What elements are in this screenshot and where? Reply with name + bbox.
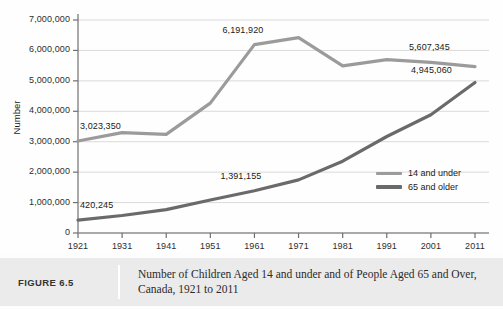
x-axis-tick-label: 1921: [56, 241, 100, 251]
figure-number: FIGURE 6.5: [18, 277, 74, 288]
x-axis-tick-label: 1931: [100, 241, 144, 251]
data-point-label: 4,945,060: [411, 65, 452, 75]
x-axis-tick-label: 1981: [321, 241, 365, 251]
legend-label-14-and-under: 14 and under: [408, 168, 461, 178]
y-axis-tick-label: 2,000,000: [29, 166, 70, 176]
figure-number-cell: FIGURE 6.5: [0, 258, 118, 306]
legend-item-65-and-older: 65 and older: [376, 182, 461, 192]
legend-swatch-65-and-older: [376, 185, 402, 189]
x-axis-tick-label: 2011: [453, 241, 497, 251]
y-axis-tick-label: 6,000,000: [29, 44, 70, 54]
y-axis-tick-label: 5,000,000: [29, 75, 70, 85]
axis-tick-marks: [73, 20, 475, 238]
x-axis-tick-label: 1951: [188, 241, 232, 251]
chart-plot-area: 01,000,0002,000,0003,000,0004,000,0005,0…: [0, 0, 503, 252]
y-axis-title: Number: [11, 83, 22, 153]
data-point-label: 1,391,155: [220, 171, 261, 181]
x-axis-tick-label: 1961: [232, 241, 276, 251]
y-axis-tick-label: 4,000,000: [29, 105, 70, 115]
y-axis-tick-label: 1,000,000: [29, 197, 70, 207]
data-point-label: 5,607,345: [409, 42, 450, 52]
chart-legend: 14 and under 65 and older: [376, 168, 461, 192]
x-axis-tick-label: 1991: [365, 241, 409, 251]
y-axis-tick-label: 0: [65, 227, 70, 237]
x-axis-tick-label: 2001: [409, 241, 453, 251]
data-point-label: 3,023,350: [80, 121, 121, 131]
data-point-label: 6,191,920: [222, 25, 263, 35]
figure-container: 01,000,0002,000,0003,000,0004,000,0005,0…: [0, 0, 503, 309]
line-chart-svg: [0, 0, 503, 252]
figure-title-cell: Number of Children Aged 14 and under and…: [120, 258, 503, 306]
data-point-label: 420,245: [80, 200, 113, 210]
legend-label-65-and-older: 65 and older: [408, 182, 458, 192]
y-axis-tick-label: 7,000,000: [29, 14, 70, 24]
x-axis-tick-label: 1941: [144, 241, 188, 251]
figure-title: Number of Children Aged 14 and under and…: [138, 267, 489, 297]
legend-swatch-14-and-under: [376, 172, 402, 175]
legend-item-14-and-under: 14 and under: [376, 168, 461, 178]
figure-caption-bar: FIGURE 6.5 Number of Children Aged 14 an…: [0, 258, 503, 306]
y-axis-tick-label: 3,000,000: [29, 136, 70, 146]
x-axis-tick-label: 1971: [277, 241, 321, 251]
